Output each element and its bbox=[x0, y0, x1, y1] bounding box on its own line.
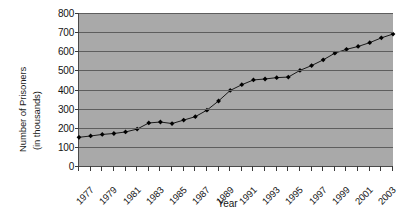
y-tick-mark bbox=[75, 51, 79, 52]
y-axis-title-line2: (in thousands) bbox=[31, 91, 42, 150]
x-axis-title: Year bbox=[0, 198, 419, 209]
y-tick-label: 500 bbox=[44, 65, 74, 76]
y-tick-mark bbox=[75, 13, 79, 14]
data-point bbox=[379, 35, 384, 40]
data-point bbox=[356, 44, 361, 49]
data-point bbox=[146, 121, 151, 126]
data-point bbox=[158, 120, 163, 125]
y-tick-mark bbox=[75, 32, 79, 33]
data-point bbox=[367, 40, 372, 45]
data-point bbox=[123, 130, 128, 135]
y-tick-label: 100 bbox=[44, 141, 74, 152]
y-axis-title-line1: Number of Prisoners bbox=[17, 67, 28, 152]
y-tick-label: 400 bbox=[44, 84, 74, 95]
data-point bbox=[170, 121, 175, 126]
gridline bbox=[79, 90, 393, 91]
y-tick-label: 700 bbox=[44, 27, 74, 38]
plot-area bbox=[78, 13, 393, 167]
gridline bbox=[79, 128, 393, 129]
data-point bbox=[251, 78, 256, 83]
data-point bbox=[77, 135, 82, 140]
gridline bbox=[79, 32, 393, 33]
y-tick-mark bbox=[75, 70, 79, 71]
data-point bbox=[309, 63, 314, 68]
y-tick-mark bbox=[75, 128, 79, 129]
data-point bbox=[239, 82, 244, 87]
y-tick-mark bbox=[75, 147, 79, 148]
data-point bbox=[111, 131, 116, 136]
data-point bbox=[88, 134, 93, 139]
y-tick-mark bbox=[75, 90, 79, 91]
data-point bbox=[321, 57, 326, 62]
data-point bbox=[100, 132, 105, 137]
data-point bbox=[181, 118, 186, 123]
y-tick-label: 200 bbox=[44, 122, 74, 133]
data-point bbox=[274, 75, 279, 80]
gridline bbox=[79, 109, 393, 110]
prisoners-line-chart: Number of Prisoners (in thousands) 80070… bbox=[0, 0, 419, 220]
gridline bbox=[79, 147, 393, 148]
gridline bbox=[79, 70, 393, 71]
y-tick-label: 600 bbox=[44, 46, 74, 57]
y-axis-tick-labels: 8007006005004003002001000 bbox=[44, 0, 74, 190]
gridline bbox=[79, 13, 393, 14]
y-tick-label: 300 bbox=[44, 103, 74, 114]
data-point bbox=[193, 114, 198, 119]
y-tick-label: 800 bbox=[44, 8, 74, 19]
gridline bbox=[79, 51, 393, 52]
y-tick-mark bbox=[75, 109, 79, 110]
data-point bbox=[263, 77, 268, 82]
data-point bbox=[286, 75, 291, 80]
